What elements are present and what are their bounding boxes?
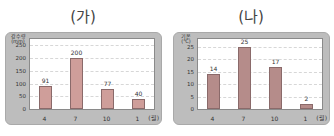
x-tick-label: 10 [265,115,285,122]
bar [70,58,83,109]
chart-left-xaxis: 47101 [29,110,155,124]
chart-right-plot: 1425172 [197,38,323,110]
chart-left-frame: 강수량 (mm) 050100150200250 912007740 47101… [5,32,162,125]
x-tick-label: 10 [97,115,117,122]
y-tick-label: 50 [6,93,26,99]
y-tick-label: 10 [174,81,194,87]
x-tick-label: 4 [203,115,223,122]
chart-right-xaxis: 47101 [197,110,323,124]
y-tick-label: 25 [174,44,194,50]
y-tick-label: 150 [6,68,26,74]
chart-right-xunit: (월) [316,113,327,122]
bar-value-label: 17 [264,58,288,65]
y-tick-label: 250 [6,42,26,48]
bar [300,104,313,109]
bar [101,89,114,109]
bar [269,67,282,110]
gridline [30,58,154,59]
y-tick-label: 0 [6,106,26,112]
bar [39,86,52,109]
y-tick-label: 15 [174,69,194,75]
chart-right-frame: 기온 (℃) 0510152025 1425172 47101 (월) [173,32,330,125]
bar [207,74,220,109]
bar-value-label: 200 [65,49,89,56]
chart-left-title: (가) [53,5,113,26]
gridline [198,47,322,48]
x-tick-label: 4 [35,115,55,122]
chart-left-plot: 912007740 [29,38,155,110]
x-tick-label: 1 [296,115,316,122]
chart-right-title: (나) [221,5,281,26]
chart-left-yaxis: 050100150200250 [6,38,28,110]
x-tick-label: 7 [66,115,86,122]
x-tick-label: 7 [234,115,254,122]
bar-value-label: 2 [295,95,319,102]
bar-value-label: 25 [233,38,257,45]
y-tick-label: 20 [174,56,194,62]
bar-value-label: 40 [127,90,151,97]
gridline [198,59,322,60]
chart-left-xunit: (월) [148,113,159,122]
chart-right-yaxis: 0510152025 [174,38,196,110]
bar [132,99,145,109]
gridline [30,45,154,46]
bar-value-label: 77 [96,80,120,87]
bar [238,47,251,110]
bar-value-label: 14 [202,65,226,72]
gridline [30,71,154,72]
y-tick-label: 200 [6,55,26,61]
bar-value-label: 91 [34,77,58,84]
y-tick-label: 100 [6,81,26,87]
x-tick-label: 1 [128,115,148,122]
y-tick-label: 5 [174,94,194,100]
y-tick-label: 0 [174,106,194,112]
